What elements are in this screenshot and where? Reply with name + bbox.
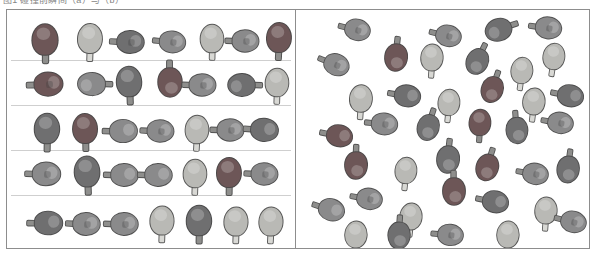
paddle-blade: [157, 68, 182, 98]
paddle-highlight: [264, 123, 276, 136]
paddle-highlight: [158, 168, 169, 180]
paddle-highlight: [449, 191, 461, 202]
paddle-highlight: [469, 59, 484, 73]
paddle-blade: [34, 71, 65, 97]
paddle-highlight: [406, 89, 418, 102]
paddle-blade: [217, 118, 246, 142]
paddle-highlight: [547, 46, 560, 58]
paddle-blade: [505, 117, 530, 146]
paddle-blade: [461, 45, 494, 80]
paddle-highlight: [442, 159, 455, 171]
paddle-blade: [115, 65, 143, 98]
paddle-highlight: [191, 209, 204, 221]
paddle-highlight: [527, 91, 540, 103]
paddle-blade: [342, 16, 373, 44]
paddle-blade: [370, 111, 400, 137]
paddle-blade: [343, 219, 368, 248]
paddle-logo: [448, 232, 455, 239]
paddle-blade: [413, 111, 443, 144]
paddle-blade: [355, 186, 385, 213]
paddle-highlight: [399, 160, 411, 171]
paddle-blade: [116, 29, 146, 54]
paddle-blade: [419, 42, 444, 71]
paddle-logo: [355, 27, 362, 34]
paddle-blade: [76, 22, 103, 54]
paddle-logo: [367, 196, 374, 203]
paddle-logo: [243, 38, 250, 45]
paddle-blade: [320, 50, 353, 81]
paddle-blade: [72, 211, 102, 236]
paddle-blade: [555, 82, 586, 110]
paddle-blade: [33, 112, 60, 144]
paddle-blade: [146, 119, 175, 144]
paddle-blade: [477, 73, 508, 106]
paddle-blade: [435, 145, 462, 176]
paddle-highlight: [349, 224, 361, 235]
paddle-highlight: [165, 82, 178, 94]
paddle-highlight: [569, 89, 582, 102]
paddle-blade: [324, 122, 355, 150]
paddle-blade: [110, 212, 139, 237]
paddle-blade: [348, 83, 374, 113]
paddle-blade: [558, 208, 589, 236]
paddle-blade: [383, 43, 410, 74]
paddle-highlight: [48, 216, 59, 229]
paddle-highlight: [338, 129, 351, 142]
paddle-highlight: [404, 206, 417, 218]
paddle-highlight: [121, 70, 135, 82]
paddle-highlight: [539, 200, 551, 211]
paddle-blade: [509, 55, 535, 85]
row-separator: [11, 105, 291, 106]
paddle-blade: [393, 82, 424, 109]
paddle-highlight: [221, 161, 234, 173]
figure-caption: 图1 碰撞前瞬间（a）与（b）: [3, 0, 124, 5]
paddle-highlight: [484, 88, 498, 102]
paddle-highlight: [351, 165, 363, 176]
paddle-logo: [228, 127, 235, 134]
paddle-blade: [393, 155, 419, 185]
paddle-highlight: [390, 57, 403, 69]
paddle-blade: [226, 73, 255, 98]
paddle-logo: [46, 81, 53, 88]
paddle-highlight: [270, 72, 283, 84]
figure-root: 图1 碰撞前瞬间（a）与（b）: [0, 0, 598, 255]
paddle-blade: [182, 158, 208, 188]
paddle-blade: [264, 67, 290, 97]
paddle-highlight: [123, 124, 134, 136]
paddle-blade: [144, 163, 173, 188]
paddle-highlight: [271, 26, 285, 38]
paddle-logo: [558, 120, 565, 127]
paddle-blade: [184, 114, 210, 145]
paddle-blade: [73, 155, 101, 188]
paddle-blade: [495, 219, 520, 248]
paddle-highlight: [154, 209, 167, 221]
paddle-highlight: [124, 168, 135, 180]
paddle-highlight: [442, 92, 454, 103]
paddle-logo: [333, 62, 341, 70]
paddle-highlight: [263, 210, 276, 222]
paddle-highlight: [188, 163, 201, 175]
paddle-blade: [110, 163, 139, 188]
paddle-highlight: [190, 118, 203, 130]
paddle-blade: [546, 110, 576, 137]
paddle-highlight: [425, 47, 437, 58]
paddle-blade: [541, 41, 568, 72]
paddle-blade: [344, 151, 369, 180]
paddle-blade: [436, 87, 462, 117]
paddle-blade: [480, 188, 511, 216]
paddle-blade: [232, 29, 261, 53]
paddle-blade: [76, 71, 106, 96]
paddle-blade: [315, 195, 348, 225]
paddle-highlight: [354, 88, 367, 100]
paddle-blade: [534, 15, 564, 41]
paddle-blade: [72, 112, 99, 143]
paddle-blade: [109, 119, 138, 144]
paddle-logo: [200, 82, 207, 89]
paddle-blade: [216, 156, 243, 187]
paddle-blade: [521, 161, 551, 188]
paddle-highlight: [82, 27, 95, 39]
paddle-logo: [546, 25, 553, 32]
paddle-logo: [262, 171, 269, 178]
paddle-highlight: [79, 160, 93, 173]
paddle-highlight: [77, 117, 90, 129]
